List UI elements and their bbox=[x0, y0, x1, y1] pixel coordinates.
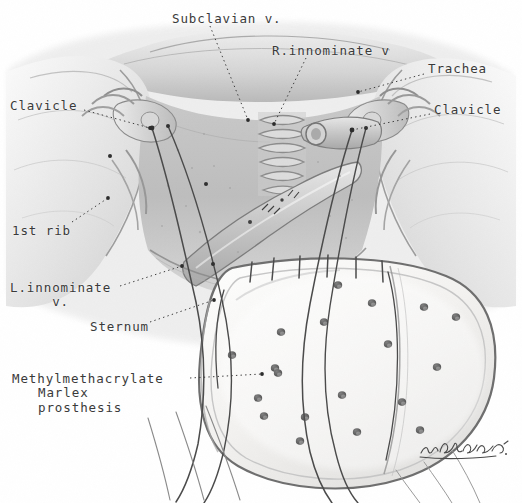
perforation-highlight bbox=[231, 355, 236, 359]
trachea-leader-endpoint bbox=[356, 90, 360, 94]
l-innominate-leader-endpoint bbox=[180, 264, 184, 268]
trachea-shape bbox=[258, 112, 306, 196]
label-prosthesis-line2: Marlex bbox=[12, 386, 164, 400]
perforation-highlight bbox=[356, 432, 361, 436]
subclavian-leader-endpoint bbox=[246, 118, 250, 122]
label-trachea: Trachea bbox=[428, 62, 487, 76]
label-prosthesis: Methylmethacrylate Marlex prosthesis bbox=[12, 372, 164, 415]
label-first-rib: 1st rib bbox=[12, 224, 71, 238]
label-clavicle-right: Clavicle bbox=[434, 103, 501, 117]
label-prosthesis-line3: prosthesis bbox=[12, 401, 164, 415]
label-clavicle-left: Clavicle bbox=[10, 99, 77, 113]
perforation-highlight bbox=[341, 395, 346, 399]
label-r-innominate-v: R.innominate v bbox=[272, 44, 390, 58]
first-rib-leader-endpoint bbox=[106, 196, 110, 200]
perforation-highlight bbox=[280, 332, 285, 336]
perforation-highlight bbox=[419, 430, 424, 434]
perforation-highlight bbox=[423, 307, 428, 311]
illustration-canvas: Subclavian v. R.innominate v Trachea Cla… bbox=[0, 0, 522, 503]
innominate-leader-endpoint bbox=[272, 122, 276, 126]
perforation-highlight bbox=[436, 367, 441, 371]
perforation-highlight bbox=[337, 285, 342, 289]
perforation-highlight bbox=[263, 416, 268, 420]
perforation-highlight bbox=[257, 398, 262, 402]
perforation-highlight bbox=[277, 373, 282, 377]
label-sternum: Sternum bbox=[90, 320, 149, 334]
perforation-highlight bbox=[371, 303, 376, 307]
perforation-highlight bbox=[401, 402, 406, 406]
perforation-highlight bbox=[455, 317, 460, 321]
perforation-highlight bbox=[387, 344, 392, 348]
artist-signature bbox=[418, 438, 514, 460]
sternum-leader-endpoint bbox=[212, 298, 216, 302]
label-subclavian-v: Subclavian v. bbox=[172, 12, 282, 26]
label-l-innominate-v: L.innominate v. bbox=[10, 281, 111, 310]
perforation-highlight bbox=[299, 441, 304, 445]
clavicle-left-leader-endpoint bbox=[148, 126, 152, 130]
label-l-innominate-line1: L.innominate bbox=[10, 281, 111, 295]
clavicle-right-leader-endpoint bbox=[350, 128, 354, 132]
label-l-innominate-line2: v. bbox=[10, 295, 111, 309]
prosthesis-leader-endpoint bbox=[260, 372, 264, 376]
